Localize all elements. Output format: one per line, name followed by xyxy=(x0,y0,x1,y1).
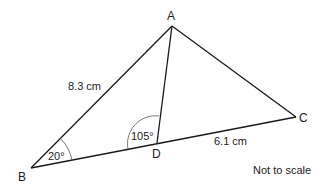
side-ac xyxy=(172,26,296,117)
not-to-scale-note: Not to scale xyxy=(253,164,311,176)
angle-label-d: 105° xyxy=(131,130,154,142)
vertex-label-a: A xyxy=(167,9,175,23)
side-ab xyxy=(31,26,172,168)
length-label-dc: 6.1 cm xyxy=(214,135,247,147)
side-bc xyxy=(31,117,296,168)
vertex-label-c: C xyxy=(299,111,308,125)
vertex-label-b: B xyxy=(18,170,26,184)
vertex-label-d: D xyxy=(152,147,161,161)
segment-ad xyxy=(157,26,172,143)
angle-label-b: 20° xyxy=(48,150,65,162)
length-label-ab: 8.3 cm xyxy=(68,80,101,92)
triangle-diagram: A B C D 8.3 cm 6.1 cm 20° 105° Not to sc… xyxy=(0,0,328,186)
